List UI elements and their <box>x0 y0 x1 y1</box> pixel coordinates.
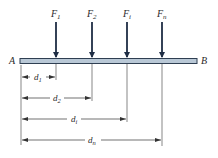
dimension-d2: d2 <box>22 93 91 104</box>
force-f1: F1 <box>50 8 61 80</box>
force-fn: Fn <box>156 8 167 146</box>
svg-text:di: di <box>71 114 78 125</box>
dimension-di: di <box>22 114 126 125</box>
dimension-dn: dn <box>22 135 161 146</box>
svg-text:F1: F1 <box>50 8 61 21</box>
dimension-d1: d1 <box>22 72 55 83</box>
svg-text:d2: d2 <box>53 93 62 104</box>
force-fi: Fi <box>122 8 131 122</box>
svg-text:dn: dn <box>88 135 96 146</box>
force-f2: F2 <box>86 8 97 101</box>
svg-text:F2: F2 <box>86 8 97 21</box>
beam-force-diagram: A B F1 F2 Fi Fn d1 d2 di <box>0 0 218 158</box>
beam <box>20 59 197 64</box>
svg-text:Fi: Fi <box>122 8 131 21</box>
svg-text:Fn: Fn <box>156 8 167 21</box>
label-a: A <box>8 55 16 66</box>
svg-text:d1: d1 <box>34 72 42 83</box>
label-b: B <box>201 55 207 66</box>
